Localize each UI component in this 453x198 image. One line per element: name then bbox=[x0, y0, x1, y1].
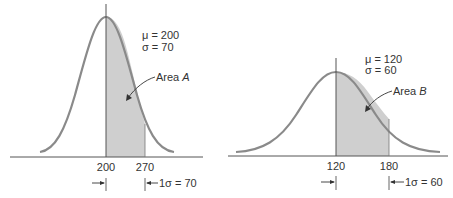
area-a-shading bbox=[106, 17, 145, 157]
normal-distribution-diagram: μ = 200 σ = 70 Area A 200 270 1σ = 70 μ … bbox=[0, 0, 453, 198]
left-tick-sigma: 270 bbox=[136, 161, 154, 173]
right-sigma-width-label: 1σ = 60 bbox=[405, 176, 443, 188]
left-dim-left-arrowhead bbox=[100, 181, 105, 185]
left-distribution: μ = 200 σ = 70 Area A 200 270 1σ = 70 bbox=[10, 4, 203, 191]
area-b-shading bbox=[336, 72, 389, 156]
left-area-label: Area A bbox=[156, 71, 190, 83]
right-dim-left-arrowhead bbox=[330, 180, 335, 184]
left-dim-right-arrowhead bbox=[146, 181, 151, 185]
left-tick-mean: 200 bbox=[97, 161, 115, 173]
right-tick-sigma: 180 bbox=[380, 160, 398, 172]
left-sigma-width-label: 1σ = 70 bbox=[159, 177, 197, 189]
left-mu-label: μ = 200 bbox=[142, 29, 179, 41]
right-area-label: Area B bbox=[393, 85, 427, 97]
right-dim-right-arrowhead bbox=[390, 180, 395, 184]
right-distribution: μ = 120 σ = 60 Area B 120 180 1σ = 60 bbox=[228, 53, 448, 190]
right-sigma-label: σ = 60 bbox=[365, 64, 397, 76]
left-sigma-label: σ = 70 bbox=[142, 41, 174, 53]
right-tick-mean: 120 bbox=[327, 160, 345, 172]
